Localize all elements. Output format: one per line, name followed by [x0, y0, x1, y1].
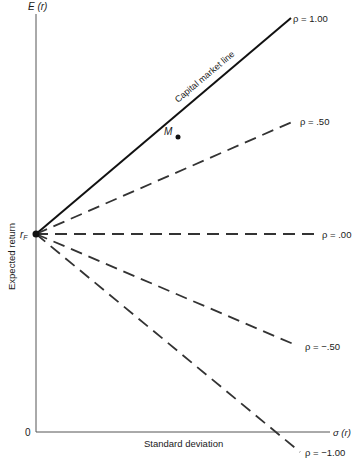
origin-label: 0 [25, 427, 31, 438]
market-point [176, 135, 181, 140]
label-rho-0.00: ρ = .00 [322, 229, 351, 240]
line-rho-neg-1.00 [36, 234, 300, 452]
label-rho-neg-0.50: ρ = −.50 [305, 341, 340, 352]
cml-label: Capital market line [173, 49, 237, 105]
line-rho-0.50 [36, 122, 292, 234]
x-axis-symbol: σ (r) [333, 427, 351, 438]
label-rho-neg-1.00: ρ = −1.00 [305, 447, 345, 458]
market-point-label: M [164, 126, 173, 137]
line-rho-neg-0.50 [36, 234, 298, 346]
x-axis-label: Standard deviation [144, 438, 223, 449]
chart-canvas: E (r) σ (r) 0 Standard deviation Expecte… [0, 0, 358, 463]
y-axis-symbol: E (r) [28, 1, 47, 12]
label-rho-1.00: ρ = 1.00 [293, 13, 328, 24]
risk-free-label: rF [20, 229, 28, 241]
label-rho-0.50: ρ = .50 [300, 116, 329, 127]
y-axis-label: Expected return [6, 223, 17, 290]
risk-free-point [33, 231, 40, 238]
